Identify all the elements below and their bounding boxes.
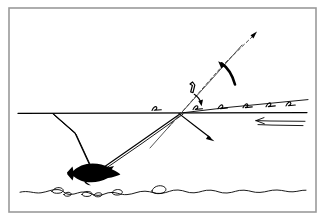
wave-mark xyxy=(286,102,295,106)
refraction-diagram-svg xyxy=(0,0,325,220)
current-arrow-underline xyxy=(258,125,303,126)
reflected-ray xyxy=(179,114,210,138)
small-curved-arrowhead xyxy=(198,100,203,107)
incident-ray xyxy=(98,113,181,171)
curved-rotation-arrow xyxy=(222,63,235,84)
incident-ray-shadow xyxy=(100,114,183,172)
figure-root: Refraction and reflection of light at a … xyxy=(0,0,325,220)
wave-mark xyxy=(152,107,161,111)
fish-body xyxy=(67,164,120,183)
wave-mark xyxy=(243,104,252,108)
diagram-border xyxy=(9,8,316,212)
wave-mark xyxy=(193,106,203,110)
current-arrow-shaft xyxy=(256,121,305,122)
water-surface-line xyxy=(18,113,307,114)
fish-silhouette xyxy=(67,164,120,186)
reflected-ray-arrowhead xyxy=(206,135,215,141)
angle-bracket-marker xyxy=(190,82,195,93)
